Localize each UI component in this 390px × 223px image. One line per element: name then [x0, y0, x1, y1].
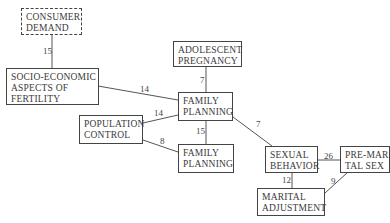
node-label-line: MARITAL — [262, 192, 320, 203]
node-label-line: FAMILY — [183, 148, 229, 159]
node-adolescent-pregnancy: ADOLESCENT PREGNANCY — [173, 41, 242, 67]
edge-weight: 15 — [196, 126, 205, 136]
node-label-line: CONSUMER — [26, 12, 77, 23]
node-consumer-demand: CONSUMER DEMAND — [21, 8, 82, 35]
edge-socio-fp1 — [98, 86, 178, 100]
node-label-line: POPULATION — [84, 119, 138, 130]
node-pre-marital-sex: PRE-MARI- TAL SEX — [340, 146, 390, 173]
node-population-control: POPULATION CONTROL — [79, 115, 143, 144]
node-sexual-behavior: SEXUAL BEHAVIOR — [265, 146, 318, 173]
node-label-line: DEMAND — [26, 23, 77, 34]
edge-weight: 15 — [43, 46, 52, 56]
node-label-line: FERTILITY — [11, 94, 94, 105]
edge-weight: 14 — [154, 108, 163, 118]
node-family-planning-2: FAMILY PLANNING — [178, 144, 234, 173]
node-family-planning-1: FAMILY PLANNING — [178, 92, 233, 121]
edge-weight: 7 — [256, 119, 261, 129]
edge-weight: 7 — [200, 75, 205, 85]
edge-fp1-sexual — [233, 117, 272, 146]
node-label-line: SEXUAL — [270, 150, 313, 161]
node-label-line: CONTROL — [84, 130, 138, 141]
node-label-line: PLANNING — [183, 107, 228, 118]
node-label-line: ADJUSTMENT — [262, 203, 320, 214]
edge-weight: 26 — [324, 151, 333, 161]
edge-weight: 9 — [331, 176, 336, 186]
node-marital-adjustment: MARITAL ADJUSTMENT — [257, 188, 325, 216]
node-label-line: TAL SEX — [345, 161, 385, 172]
node-label-line: SOCIO-ECONOMIC — [11, 72, 94, 83]
node-label-line: ADOLESCENT — [178, 45, 237, 56]
node-label-line: FAMILY — [183, 96, 228, 107]
edge-weight: 8 — [160, 136, 165, 146]
node-socio-economic: SOCIO-ECONOMIC ASPECTS OF FERTILITY — [6, 68, 99, 105]
edge-premarital-marital — [325, 172, 348, 193]
node-label-line: PRE-MARI- — [345, 150, 385, 161]
edge-weight: 12 — [282, 175, 291, 185]
node-label-line: PLANNING — [183, 159, 229, 170]
edge-weight: 14 — [140, 84, 149, 94]
node-label-line: BEHAVIOR — [270, 161, 313, 172]
node-label-line: ASPECTS OF — [11, 83, 94, 94]
node-label-line: PREGNANCY — [178, 56, 237, 67]
